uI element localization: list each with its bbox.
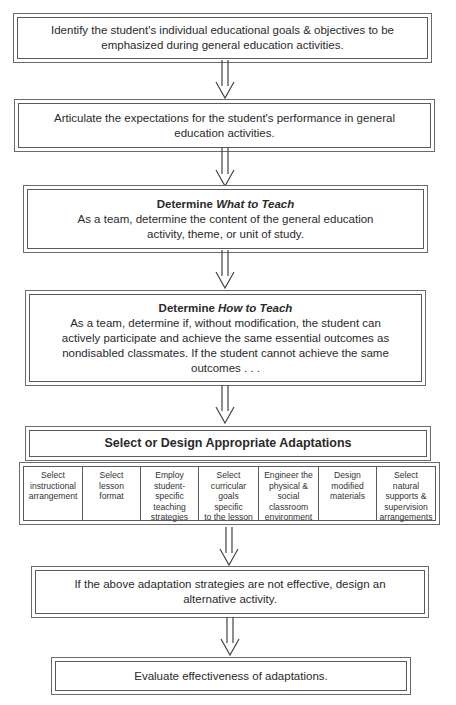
- step-select-adaptations-header: Select or Design Appropriate Adaptations: [25, 426, 431, 461]
- adaptation-option-teaching-strategies: Employ student- specific teaching strate…: [141, 467, 199, 520]
- step-alternative-activity-inner: If the above adaptation strategies are n…: [35, 570, 425, 614]
- adaptation-option-classroom-environment: Engineer the physical & social classroom…: [259, 467, 319, 520]
- double-down-arrow-icon: [215, 60, 235, 100]
- step-text-line: Evaluate effectiveness of adaptations.: [134, 669, 328, 684]
- step-title: Determine What to Teach: [157, 197, 295, 212]
- adaptation-option-instructional-arrangement: Select instructional arrangement: [24, 467, 83, 520]
- step-how-to-teach-inner: Determine How to Teach As a team, determ…: [29, 294, 422, 382]
- step-text-line: Articulate the expectations for the stud…: [54, 111, 395, 126]
- step-text-line: As a team, determine if, without modific…: [70, 316, 381, 331]
- step-title: Determine How to Teach: [159, 301, 293, 316]
- adaptation-options-row: Select instructional arrangement Select …: [23, 466, 436, 521]
- step-evaluate-inner: Evaluate effectiveness of adaptations.: [55, 661, 407, 691]
- step-what-to-teach: Determine What to Teach As a team, deter…: [23, 185, 428, 253]
- adaptations-title: Select or Design Appropriate Adaptations: [29, 430, 427, 457]
- double-down-arrow-icon: [220, 617, 240, 657]
- step-text-line: actively participate and achieve the sam…: [62, 331, 389, 346]
- adaptation-option-lesson-format: Select lesson format: [83, 467, 141, 520]
- adaptation-option-curricular-goals: Select curricular goals specific to the …: [199, 467, 259, 520]
- step-how-to-teach: Determine How to Teach As a team, determ…: [25, 290, 426, 386]
- double-down-arrow-icon: [215, 250, 235, 290]
- step-text-line: activity, theme, or unit of study.: [147, 227, 304, 242]
- step-identify-goals: Identify the student's individual educat…: [13, 13, 432, 63]
- step-articulate-expectations: Articulate the expectations for the stud…: [14, 99, 435, 152]
- step-evaluate: Evaluate effectiveness of adaptations.: [51, 657, 411, 695]
- adaptation-option-modified-materials: Design modified materials: [319, 467, 377, 520]
- step-text-line: emphasized during general education acti…: [101, 38, 343, 53]
- step-text-line: education activities.: [174, 126, 274, 141]
- double-down-arrow-icon: [215, 385, 235, 425]
- double-down-arrow-icon: [219, 527, 239, 567]
- step-text-line: alternative activity.: [183, 592, 277, 607]
- adaptation-option-natural-supports: Select natural supports & supervision ar…: [377, 467, 435, 520]
- step-text-line: If the above adaptation strategies are n…: [74, 577, 385, 592]
- step-text-line: nondisabled classmates. If the student c…: [62, 346, 389, 361]
- step-what-to-teach-inner: Determine What to Teach As a team, deter…: [27, 189, 424, 249]
- step-text-line: As a team, determine the content of the …: [78, 212, 374, 227]
- double-down-arrow-icon: [215, 148, 235, 188]
- step-text-line: Identify the student's individual educat…: [51, 23, 394, 38]
- adaptation-options-table: Select instructional arrangement Select …: [19, 462, 440, 525]
- step-alternative-activity: If the above adaptation strategies are n…: [31, 566, 429, 618]
- step-identify-goals-inner: Identify the student's individual educat…: [17, 17, 428, 59]
- step-text-line: outcomes . . .: [191, 361, 260, 376]
- step-articulate-expectations-inner: Articulate the expectations for the stud…: [18, 103, 431, 148]
